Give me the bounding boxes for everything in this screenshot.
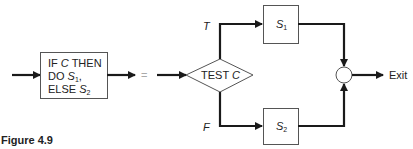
exit-label: Exit <box>389 69 407 81</box>
true-branch-line <box>220 24 262 59</box>
equals-sign: = <box>141 69 147 81</box>
s2-to-junction-line <box>298 84 344 126</box>
s1-to-junction-line <box>298 24 344 66</box>
if-box-line1: IF C THEN <box>48 57 102 69</box>
flowchart: IF C THEN DO S1, ELSE S2 = TEST C T F S1… <box>0 0 413 149</box>
false-label: F <box>203 121 211 133</box>
figure-caption: Figure 4.9 <box>1 134 53 146</box>
junction-circle <box>336 67 352 83</box>
if-box-line3: ELSE S2 <box>48 83 91 96</box>
true-label: T <box>203 20 211 32</box>
false-branch-line <box>220 92 262 126</box>
decision-label: TEST C <box>201 69 240 81</box>
